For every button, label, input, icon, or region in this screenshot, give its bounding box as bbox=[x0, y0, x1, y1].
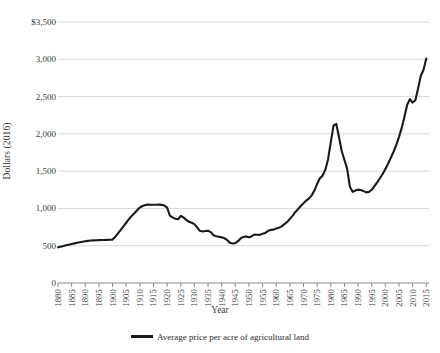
y-axis-tick-label: 2,000 bbox=[10, 129, 56, 139]
chart-container: Dollars (2016) 05001,0001,5002,0002,5003… bbox=[0, 0, 440, 353]
x-axis-tick-marks bbox=[58, 283, 426, 287]
y-axis-tick-label: 0 bbox=[10, 278, 56, 288]
y-axis-tick-label: 3,000 bbox=[10, 54, 56, 64]
chart-legend: Average price per acre of agricultural l… bbox=[0, 330, 440, 342]
y-axis-tick-label: 500 bbox=[10, 241, 56, 251]
legend-line-swatch bbox=[131, 335, 153, 338]
legend-label: Average price per acre of agricultural l… bbox=[157, 332, 309, 342]
gridlines bbox=[58, 22, 429, 246]
y-axis-tick-label: $3,500 bbox=[10, 17, 56, 27]
y-axis-tick-label: 1,500 bbox=[10, 166, 56, 176]
x-axis-title: Year bbox=[0, 305, 440, 315]
y-axis-tick-labels: 05001,0001,5002,0002,5003,000$3,500 bbox=[0, 0, 56, 353]
y-axis-tick-label: 1,000 bbox=[10, 203, 56, 213]
legend-item-average-price: Average price per acre of agricultural l… bbox=[131, 332, 309, 342]
y-axis-tick-label: 2,500 bbox=[10, 92, 56, 102]
series-line-average-price bbox=[58, 59, 426, 248]
